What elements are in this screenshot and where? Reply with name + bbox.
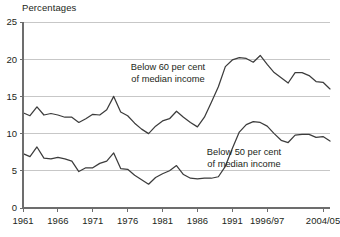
y-axis-tick-label: 15 — [6, 91, 17, 102]
x-axis-tick-label: 1991 — [222, 215, 243, 226]
y-axis-tick-labels: 0510152025 — [6, 16, 17, 213]
series-label-below-50-line2: of median income — [207, 159, 280, 169]
x-axis-tick-label: 1981 — [152, 215, 173, 226]
y-axis-tick-label: 20 — [6, 54, 17, 65]
line-chart-plot: 0510152025 19611966197119761981198619911… — [0, 0, 340, 237]
series-label-below-60-line1: Below 60 per cent — [131, 62, 206, 72]
gridlines-group — [23, 22, 330, 171]
series-label-below-50-line1: Below 50 per cent — [207, 147, 282, 157]
x-axis-tick-label: 1976 — [117, 215, 138, 226]
x-axis-tick-labels: 19611966197119761981198619911996/972004/… — [12, 215, 340, 226]
y-axis-tick-label: 10 — [6, 128, 17, 139]
x-axis-tick-label: 1961 — [12, 215, 33, 226]
x-axis-tick-label: 1986 — [187, 215, 208, 226]
chart-container: Percentages 0510152025 19611966197119761… — [0, 0, 340, 237]
y-axis-tick-label: 25 — [6, 16, 17, 27]
y-axis-tick-label: 0 — [12, 202, 17, 213]
series-line-below-50 — [23, 122, 330, 184]
series-label-below-60-line2: of median income — [131, 74, 204, 84]
x-axis-tick-label: 1971 — [82, 215, 103, 226]
x-axis-tick-label: 1966 — [47, 215, 68, 226]
y-axis-tick-label: 5 — [12, 165, 17, 176]
x-axis-tick-label: 1996/97 — [250, 215, 284, 226]
x-axis-tick-label: 2004/05 — [306, 215, 340, 226]
